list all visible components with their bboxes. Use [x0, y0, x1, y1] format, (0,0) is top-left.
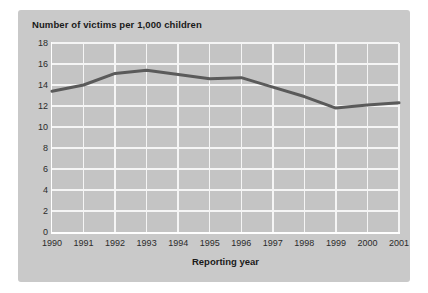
x-axis-tick-labels: 1990199119921993199419951996199719981999… [52, 238, 399, 252]
y-axis-tick-label: 0 [22, 227, 48, 237]
y-axis-tick-label: 2 [22, 206, 48, 216]
x-axis-tick-label: 1999 [319, 238, 353, 249]
y-axis-tick-label: 12 [22, 101, 48, 111]
x-axis-tick-label: 2001 [382, 238, 416, 249]
chart-title: Number of victims per 1,000 children [32, 19, 202, 30]
x-axis-tick-label: 1997 [256, 238, 290, 249]
y-axis-tick-label: 10 [22, 122, 48, 132]
x-axis-tick-label: 1994 [161, 238, 195, 249]
x-axis-title: Reporting year [52, 256, 399, 267]
x-axis-tick-label: 2000 [350, 238, 384, 249]
y-axis-tick-label: 8 [22, 143, 48, 153]
x-axis-tick-label: 1993 [130, 238, 164, 249]
y-axis-tick-label: 16 [22, 59, 48, 69]
x-axis-tick-label: 1998 [287, 238, 321, 249]
x-axis-tick-label: 1991 [67, 238, 101, 249]
chart-panel: Number of victims per 1,000 children 024… [18, 10, 410, 282]
plot-area [52, 43, 399, 232]
x-axis-tick-label: 1995 [193, 238, 227, 249]
x-axis-line [51, 232, 400, 234]
y-axis-tick-label: 4 [22, 185, 48, 195]
x-axis-tick-label: 1996 [224, 238, 258, 249]
series-line-victims-per-1000-children [52, 43, 399, 232]
y-axis-tick-label: 18 [22, 38, 48, 48]
y-axis-tick-label: 6 [22, 164, 48, 174]
y-axis-tick-label: 14 [22, 80, 48, 90]
y-axis-tick-labels: 024681012141618 [18, 43, 48, 232]
x-axis-tick-label: 1990 [35, 238, 69, 249]
x-axis-tick-label: 1992 [98, 238, 132, 249]
